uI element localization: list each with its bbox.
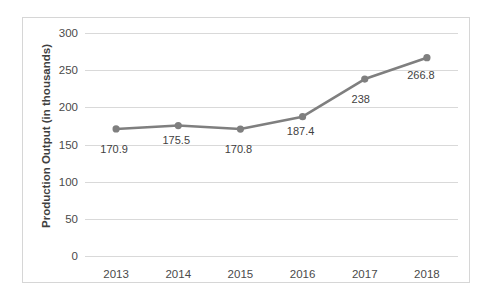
y-tick-label: 0 bbox=[72, 250, 78, 262]
data-point-marker bbox=[361, 75, 368, 82]
plot-area: 050100150200250300 201320142015201620172… bbox=[85, 33, 458, 256]
x-tick-label: 2017 bbox=[352, 268, 378, 280]
x-tick-label: 2018 bbox=[414, 268, 440, 280]
gridline bbox=[85, 256, 458, 257]
y-tick-label: 150 bbox=[59, 139, 78, 151]
y-tick-label: 200 bbox=[59, 101, 78, 113]
x-tick-label: 2016 bbox=[290, 268, 316, 280]
data-point-label: 266.8 bbox=[407, 69, 435, 81]
data-point-marker bbox=[112, 125, 119, 132]
data-point-label: 187.4 bbox=[287, 125, 315, 137]
data-point-label: 170.8 bbox=[225, 143, 253, 155]
x-tick-label: 2013 bbox=[103, 268, 129, 280]
data-point-label: 175.5 bbox=[162, 134, 190, 146]
x-tick-label: 2015 bbox=[228, 268, 254, 280]
y-tick-label: 300 bbox=[59, 27, 78, 39]
y-tick-label: 250 bbox=[59, 64, 78, 76]
data-point-marker bbox=[423, 54, 430, 61]
chart-figure: Production Output (in thousands) 0501001… bbox=[22, 17, 470, 283]
line-series bbox=[85, 33, 458, 256]
series-markers bbox=[112, 54, 430, 133]
data-point-label: 238 bbox=[352, 93, 370, 105]
data-point-marker bbox=[299, 113, 306, 120]
data-point-marker bbox=[237, 125, 244, 132]
x-tick-label: 2014 bbox=[165, 268, 191, 280]
series-polyline bbox=[116, 58, 427, 129]
data-point-label: 170.9 bbox=[100, 143, 128, 155]
y-axis-title: Production Output (in thousands) bbox=[40, 21, 52, 251]
y-tick-label: 50 bbox=[65, 213, 78, 225]
y-tick-label: 100 bbox=[59, 176, 78, 188]
data-point-marker bbox=[175, 122, 182, 129]
